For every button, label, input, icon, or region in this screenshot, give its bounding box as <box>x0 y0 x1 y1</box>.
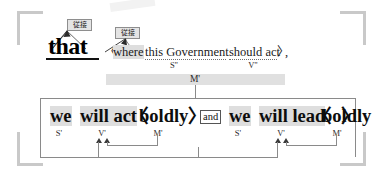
main-right-subject-text: we <box>229 106 251 126</box>
connector-left-modifier-down <box>157 134 158 145</box>
label-main-left-modifier: M' <box>150 128 166 138</box>
connector-right-modifier-up <box>286 142 287 146</box>
conjunction-box-text: and <box>200 110 221 124</box>
corner-bracket-top-left <box>17 11 43 45</box>
clause-subject: this Government <box>145 45 229 59</box>
arrowhead-left-outer <box>96 138 102 143</box>
headword-double-underline <box>46 58 99 60</box>
connector-right-modifier-down <box>336 134 337 145</box>
connector-band-to-main <box>195 85 196 98</box>
main-left-modifier: boldly <box>139 105 188 127</box>
main-left-verb: will act <box>80 105 137 127</box>
main-left-subject-text: we <box>50 106 72 126</box>
connector-left-verb-riser <box>98 142 99 157</box>
connector-box-bottom-right <box>198 157 278 158</box>
connector-left-modifier-up <box>107 142 108 146</box>
label-modifier-band: M' <box>185 74 205 85</box>
main-right-subject: we <box>229 105 251 127</box>
corner-bracket-top-right <box>340 11 366 45</box>
label-main-right-verb: V' <box>273 128 289 138</box>
label-clause-verb: V" <box>243 60 263 70</box>
label-main-right-modifier: M' <box>329 128 345 138</box>
label-clause-subject: S" <box>164 60 184 70</box>
label-main-left-verb: V' <box>94 128 110 138</box>
connector-box-bottom-left <box>40 157 198 158</box>
main-right-modifier-close: 〉 <box>341 105 360 127</box>
diagram-canvas: 従接 従接 that 〈 where this Government shoul… <box>0 0 383 177</box>
main-left-subject: we <box>50 105 72 127</box>
scan-artifact <box>110 0 156 12</box>
clause-verb: should act <box>229 45 280 59</box>
main-conjunction: and <box>200 110 221 129</box>
dotted-underline-subject <box>145 58 226 60</box>
main-clause-box-top-right <box>195 98 355 99</box>
main-clause-box-left-wall <box>40 98 41 157</box>
arrowhead-right-outer <box>275 138 281 143</box>
connector-right-verb-riser <box>277 142 278 157</box>
connector-right-modifier-across <box>286 145 337 146</box>
main-clause-box-top-left <box>40 98 196 99</box>
label-main-right-subject: S' <box>230 128 246 138</box>
main-left-verb-text: will act <box>80 106 137 126</box>
clause-relative-word: where <box>113 45 144 59</box>
clause-comma: , <box>285 45 288 59</box>
connector-midpoint-riser <box>198 147 199 158</box>
connector-left-modifier-across <box>107 145 158 146</box>
headword-that: that <box>48 34 87 58</box>
label-main-left-subject: S' <box>51 128 67 138</box>
